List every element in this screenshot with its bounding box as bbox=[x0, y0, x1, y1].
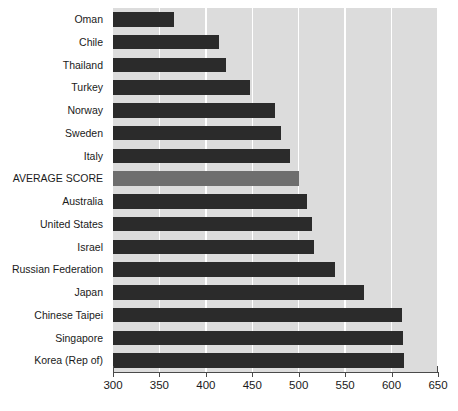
y-axis-label: Australia bbox=[62, 190, 103, 213]
bar-australia bbox=[113, 194, 307, 209]
bar-chile bbox=[113, 35, 219, 50]
bar-singapore bbox=[113, 331, 403, 346]
y-axis-label: Norway bbox=[67, 99, 103, 122]
y-axis-label: Chinese Taipei bbox=[34, 304, 103, 327]
bar-italy bbox=[113, 149, 290, 164]
y-axis-label: Sweden bbox=[65, 122, 103, 145]
x-tick-mark-550 bbox=[345, 372, 346, 377]
bar-turkey bbox=[113, 80, 250, 95]
x-tick-label: 350 bbox=[150, 379, 169, 391]
bar-row bbox=[113, 54, 438, 77]
x-tick-mark-400 bbox=[206, 372, 207, 377]
bar-row bbox=[113, 327, 438, 350]
plot-area bbox=[113, 8, 438, 372]
x-tick-label: 600 bbox=[382, 379, 401, 391]
y-axis-label: Japan bbox=[74, 281, 103, 304]
bar-row bbox=[113, 122, 438, 145]
bar-row bbox=[113, 304, 438, 327]
y-axis-label: Russian Federation bbox=[12, 258, 103, 281]
x-tick-mark-300 bbox=[113, 372, 114, 377]
bar-row bbox=[113, 281, 438, 304]
x-tick-label: 450 bbox=[243, 379, 262, 391]
bar-row bbox=[113, 258, 438, 281]
bar-row bbox=[113, 99, 438, 122]
bar-row bbox=[113, 236, 438, 259]
x-tick-label: 550 bbox=[336, 379, 355, 391]
x-tick-mark-650 bbox=[438, 372, 439, 377]
y-axis-label: AVERAGE SCORE bbox=[13, 167, 103, 190]
bar-average-score bbox=[113, 171, 299, 186]
bar-row bbox=[113, 349, 438, 372]
bar-russian-federation bbox=[113, 262, 335, 277]
x-tick-label: 500 bbox=[289, 379, 308, 391]
bar-korea-rep-of bbox=[113, 353, 404, 368]
bar-row bbox=[113, 31, 438, 54]
y-axis-label: Singapore bbox=[55, 327, 103, 350]
x-tick-mark-450 bbox=[252, 372, 253, 377]
y-axis-label: Turkey bbox=[71, 76, 103, 99]
x-tick-label: 650 bbox=[428, 379, 447, 391]
bar-row bbox=[113, 8, 438, 31]
x-tick-label: 300 bbox=[103, 379, 122, 391]
x-axis-line bbox=[113, 372, 438, 373]
x-tick-mark-600 bbox=[392, 372, 393, 377]
bar-united-states bbox=[113, 217, 312, 232]
y-axis-label: Chile bbox=[79, 31, 103, 54]
bar-oman bbox=[113, 12, 174, 27]
bar-chart: OmanChileThailandTurkeyNorwaySwedenItaly… bbox=[0, 0, 458, 411]
x-tick-label: 400 bbox=[196, 379, 215, 391]
y-axis-label: Israel bbox=[77, 236, 103, 259]
y-axis-label: Oman bbox=[74, 8, 103, 31]
bar-row bbox=[113, 167, 438, 190]
y-axis-label: Italy bbox=[84, 145, 103, 168]
bar-row bbox=[113, 213, 438, 236]
y-axis-label: United States bbox=[40, 213, 103, 236]
y-axis-label: Thailand bbox=[63, 54, 103, 77]
bar-israel bbox=[113, 240, 314, 255]
bar-row bbox=[113, 190, 438, 213]
bar-japan bbox=[113, 285, 364, 300]
y-axis-label: Korea (Rep of) bbox=[34, 349, 103, 372]
bar-row bbox=[113, 76, 438, 99]
y-axis-label-group: OmanChileThailandTurkeyNorwaySwedenItaly… bbox=[0, 8, 108, 372]
bar-row bbox=[113, 145, 438, 168]
bar-sweden bbox=[113, 126, 281, 141]
bar-chinese-taipei bbox=[113, 308, 402, 323]
bar-thailand bbox=[113, 58, 226, 73]
x-tick-mark-350 bbox=[159, 372, 160, 377]
bar-norway bbox=[113, 103, 275, 118]
x-tick-mark-500 bbox=[299, 372, 300, 377]
